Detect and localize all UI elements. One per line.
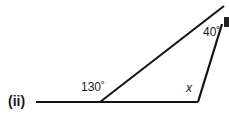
angle-130-label: 130˚: [81, 81, 105, 93]
edge-mark: [224, 17, 229, 27]
triangle-diagram: [0, 0, 229, 114]
part-label: (ii): [8, 94, 25, 108]
angle-x-label: x: [186, 82, 192, 94]
long-side: [100, 6, 224, 102]
angle-40-label: 40˚: [203, 26, 220, 38]
